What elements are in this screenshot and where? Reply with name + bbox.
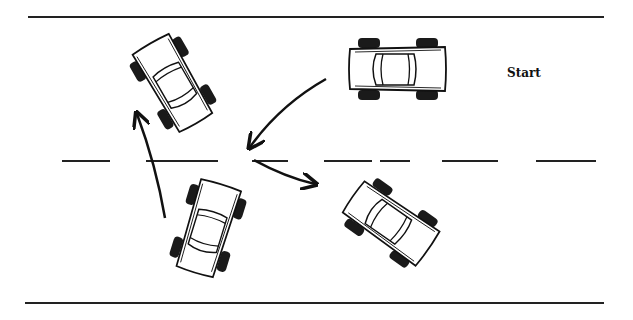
arrow-1 — [250, 79, 326, 147]
arrow-2 — [254, 160, 315, 184]
car-start — [349, 38, 446, 100]
arrow-3 — [137, 114, 165, 218]
car-step2 — [166, 176, 249, 281]
car-step1 — [336, 172, 445, 273]
three-point-turn-diagram — [0, 0, 633, 320]
start-label: Start — [507, 66, 541, 80]
